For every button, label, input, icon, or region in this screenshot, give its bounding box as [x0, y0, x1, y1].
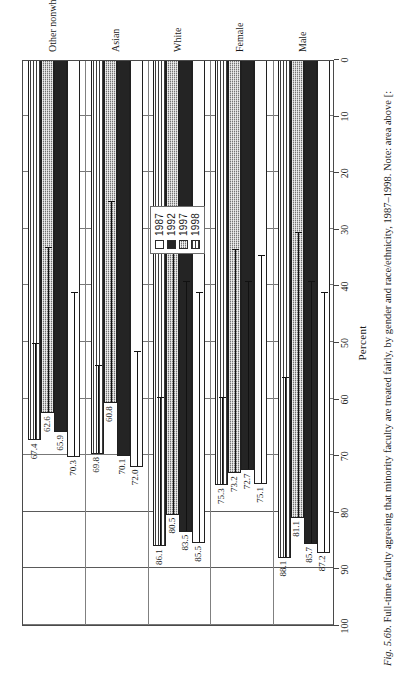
- figure-number: Fig. 5.6b.: [382, 625, 393, 666]
- bar-marker-cap: [295, 232, 302, 233]
- category-label-female: Female: [235, 23, 245, 52]
- bar-row: [291, 61, 304, 625]
- bar-marker-line: [248, 282, 249, 470]
- bar-group-asian: [85, 61, 147, 625]
- bar-male-1992: [304, 60, 317, 544]
- value-label-white-1997: 80.5: [167, 516, 176, 534]
- bar-row: [304, 61, 317, 625]
- bar-asian-1997: [104, 60, 117, 403]
- legend-label: 1997: [179, 213, 189, 236]
- bar-asian-1987: [130, 60, 143, 467]
- bar-marker-line: [74, 293, 75, 456]
- bar-other-nonwhite-1998: [28, 60, 41, 440]
- value-label-other-nonwhite-1992: 65.9: [55, 433, 64, 451]
- axis-tick-label-0: 0: [340, 58, 350, 63]
- axis-tick-label-90: 90: [340, 564, 350, 574]
- bar-male-1997: [291, 60, 304, 518]
- bar-row: [228, 61, 241, 625]
- bar-marker-line: [235, 250, 236, 472]
- bar-row: [117, 61, 130, 625]
- bar-marker-cap: [308, 281, 315, 282]
- bar-row: [41, 61, 54, 625]
- bar-marker-line: [173, 214, 174, 514]
- bar-marker-cap: [282, 377, 289, 378]
- value-label-female-1987: 75.1: [255, 485, 264, 503]
- bar-marker-cap: [321, 292, 328, 293]
- category-label-other-nonwhite: Other nonwhite: [48, 0, 58, 52]
- bar-other-nonwhite-1997: [41, 60, 54, 413]
- bar-row: [215, 61, 228, 625]
- bar-row: [67, 61, 80, 625]
- axis-tick-label-60: 60: [340, 395, 350, 405]
- bar-marker-line: [186, 282, 187, 531]
- bar-white-1992: [179, 60, 192, 532]
- bar-marker-cap: [196, 292, 203, 293]
- value-label-other-nonwhite-1997: 62.6: [42, 414, 51, 432]
- bar-female-1992: [241, 60, 254, 470]
- bar-marker-cap: [232, 249, 239, 250]
- axis-tick-label-50: 50: [340, 338, 350, 348]
- bar-marker-cap: [258, 255, 265, 256]
- value-label-female-1992: 72.7: [242, 471, 251, 489]
- value-label-male-1992: 85.7: [305, 545, 314, 563]
- value-label-white-1998: 86.1: [154, 547, 163, 565]
- bar-marker-cap: [108, 201, 115, 202]
- figure-canvas: 1987199219971998 88.181.185.787.275.373.…: [0, 0, 412, 684]
- bar-row: [166, 61, 179, 625]
- value-label-male-1987: 87.2: [318, 554, 327, 572]
- horizontal-stripe-swatch: [191, 240, 200, 249]
- value-label-other-nonwhite-1998: 67.4: [29, 441, 38, 459]
- bar-marker-cap: [219, 397, 226, 398]
- axis-title: Percent: [356, 60, 368, 626]
- category-label-white: White: [173, 28, 183, 52]
- bar-white-1987: [192, 60, 205, 543]
- white-dotted-swatch: [155, 240, 164, 249]
- axis-tick-label-30: 30: [340, 225, 350, 235]
- bar-asian-1998: [91, 60, 104, 454]
- value-label-asian-1997: 60.8: [105, 404, 114, 422]
- gray-crosshatch-swatch: [179, 240, 188, 249]
- bar-marker-line: [48, 248, 49, 413]
- axis-tick-label-10: 10: [340, 112, 350, 122]
- legend-label: 1992: [167, 213, 177, 236]
- bar-group-female: [210, 61, 272, 625]
- axis-tick-label-70: 70: [340, 451, 350, 461]
- bar-group-other-nonwhite: [23, 61, 85, 625]
- bar-marker-cap: [71, 292, 78, 293]
- bar-marker-line: [111, 202, 112, 402]
- figure-caption-text: Full-time faculty agreeing that minority…: [382, 91, 393, 625]
- value-label-male-1998: 88.1: [279, 559, 288, 577]
- bar-marker-line: [137, 352, 138, 465]
- figure: 1987199219971998 88.181.185.787.275.373.…: [0, 0, 412, 684]
- bar-row: [241, 61, 254, 625]
- bar-marker-line: [222, 398, 223, 485]
- bar-marker-line: [199, 293, 200, 542]
- bar-row: [91, 61, 104, 625]
- bar-marker-cap: [183, 281, 190, 282]
- value-label-white-1987: 85.5: [193, 544, 202, 562]
- figure-caption: Fig. 5.6b. Full-time faculty agreeing th…: [382, 6, 394, 666]
- axis-tick-label-20: 20: [340, 168, 350, 178]
- bar-male-1987: [317, 60, 330, 553]
- bar-row: [278, 61, 291, 625]
- percent-axis: 1009080706050403020100: [334, 60, 354, 626]
- plot-area: [22, 60, 334, 626]
- axis-tick-label-40: 40: [340, 281, 350, 291]
- bar-row: [130, 61, 143, 625]
- bar-asian-1992: [117, 60, 130, 456]
- bar-row: [317, 61, 330, 625]
- bar-other-nonwhite-1992: [54, 60, 67, 432]
- value-label-asian-1992: 70.1: [118, 457, 127, 475]
- bar-groups: [23, 61, 333, 625]
- chart-legend: 1987199219971998: [150, 206, 205, 254]
- bar-marker-cap: [45, 247, 52, 248]
- value-label-male-1997: 81.1: [292, 519, 301, 537]
- bar-row: [254, 61, 267, 625]
- bar-marker-cap: [32, 343, 39, 344]
- bar-marker-cap: [157, 397, 164, 398]
- bar-marker-line: [298, 233, 299, 517]
- legend-item-1998: 1998: [190, 213, 201, 249]
- bar-row: [192, 61, 205, 625]
- bar-white-1997: [166, 60, 179, 515]
- value-label-other-nonwhite-1987: 70.3: [68, 458, 77, 476]
